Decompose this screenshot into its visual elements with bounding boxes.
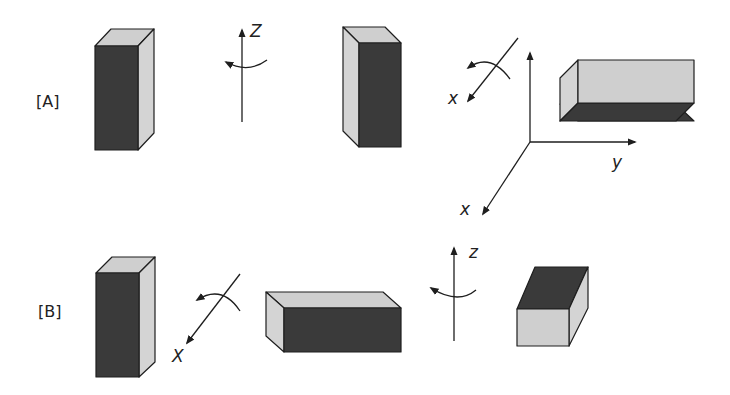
rotation-z-axis-a: Z (226, 21, 267, 122)
box-b2-after-x-rotation (266, 292, 401, 352)
axis-label-z-b: z (468, 242, 479, 262)
rotation-x-axis-a: x (447, 38, 518, 108)
box-a3-after-x-rotation (560, 60, 694, 121)
axis-label-x-frame: x (459, 199, 471, 219)
box-b1-initial (96, 257, 155, 377)
rotation-x-axis-b: X (171, 274, 240, 366)
box-b3-after-z-rotation (517, 267, 588, 346)
rotation-diagram: Z x y x X (0, 0, 730, 395)
box-a2-after-z-rotation (343, 27, 401, 147)
axis-label-z-a: Z (249, 21, 262, 41)
box-a1-initial (95, 29, 154, 150)
axis-label-x-a: x (447, 88, 459, 108)
axis-label-y-frame: y (611, 152, 623, 172)
rotation-z-axis-b: z (431, 242, 479, 341)
axis-label-x-b: X (171, 346, 184, 366)
